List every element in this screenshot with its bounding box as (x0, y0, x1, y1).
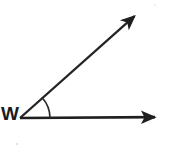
artifact-speck-bottom-left (16, 143, 18, 145)
diagonal-ray (20, 16, 135, 118)
angle-figure-svg (0, 0, 169, 148)
angle-diagram: W (0, 0, 169, 148)
angle-arc-mark (42, 98, 50, 118)
vertex-label-w: W (1, 104, 18, 124)
horizontal-ray (20, 117, 155, 118)
artifact-speck-top-right (154, 4, 156, 6)
